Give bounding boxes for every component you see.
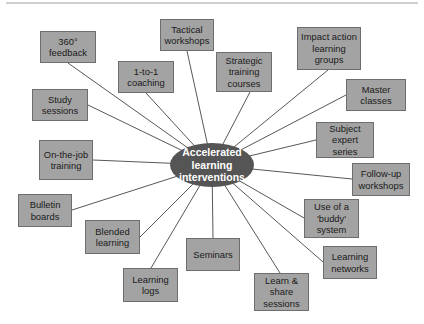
node-impact-action-learning-groups: Impact action learning groups	[297, 27, 361, 70]
node-label: On-the-job training	[42, 149, 90, 172]
node-label: Impact action learning groups	[300, 31, 358, 66]
node-label: Master classes	[349, 84, 403, 107]
node-label: Tactical workshops	[163, 24, 211, 47]
node-label: Learning logs	[126, 274, 175, 297]
node-learning-logs: Learning logs	[123, 268, 178, 302]
node-label: 1-to-1 coaching	[121, 66, 171, 89]
node-learn-share-sessions: Learn & share sessions	[254, 273, 309, 311]
node-label: Learning networks	[326, 251, 374, 274]
node-tactical-workshops: Tactical workshops	[160, 19, 214, 51]
node-label: 360° feedback	[43, 36, 93, 59]
node-label: Study sessions	[35, 94, 85, 117]
node-subject-expert-series: Subject expert series	[316, 122, 374, 158]
node-use-of-a-buddy-system: Use of a 'buddy' system	[304, 199, 359, 238]
node-label: Bulletin boards	[21, 199, 69, 222]
mind-map-diagram: 360° feedbackTactical workshops1-to-1 co…	[0, 0, 424, 324]
node-learning-networks: Learning networks	[323, 246, 377, 279]
node-label: Subject expert series	[319, 123, 371, 158]
node-label: Strategic training courses	[219, 55, 269, 90]
node-1-to-1-coaching: 1-to-1 coaching	[118, 61, 174, 93]
node-label: Follow-up workshops	[355, 168, 407, 191]
node-label: Learn & share sessions	[257, 275, 306, 310]
node-360-feedback: 360° feedback	[40, 31, 96, 63]
node-label: Seminars	[193, 249, 233, 261]
node-strategic-training-courses: Strategic training courses	[216, 52, 272, 92]
node-on-the-job-training: On-the-job training	[39, 140, 93, 180]
node-study-sessions: Study sessions	[32, 89, 88, 121]
central-hub-node: Accelerated learning interventions	[170, 143, 254, 187]
node-bulletin-boards: Bulletin boards	[18, 194, 72, 227]
node-label: Use of a 'buddy' system	[307, 201, 356, 236]
node-master-classes: Master classes	[346, 79, 406, 111]
node-blended-learning: Blended learning	[85, 220, 140, 254]
node-seminars: Seminars	[186, 238, 240, 271]
node-follow-up-workshops: Follow-up workshops	[352, 163, 410, 196]
node-label: Blended learning	[88, 226, 137, 249]
hub-label: Accelerated learning interventions	[170, 146, 254, 184]
